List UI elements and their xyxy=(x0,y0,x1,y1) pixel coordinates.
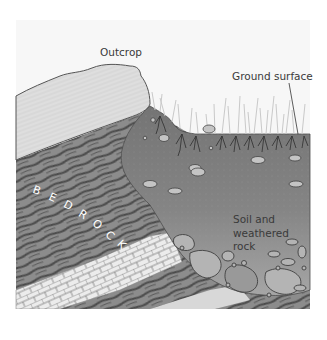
soil-label: Soil and weathered rock xyxy=(233,213,289,254)
ground-surface-label: Ground surface xyxy=(232,70,313,83)
outcrop-label: Outcrop xyxy=(100,46,142,59)
soil-profile-diagram xyxy=(0,0,327,340)
